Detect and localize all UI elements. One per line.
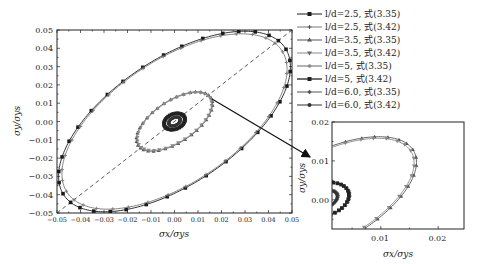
y-tick-label: 0.02 xyxy=(35,81,53,90)
x-tick-label: 0.01 xyxy=(371,234,389,243)
x-tick-label: 0.02 xyxy=(214,216,228,224)
x-tick-label: 0.04 xyxy=(261,216,275,224)
x-tick-label: −0.02 xyxy=(118,216,138,224)
main-plot: 0.05 0.04 0.03 0.02 0.01 0.00 −0.01 −0.0… xyxy=(12,26,299,239)
y-tick-label: −0.04 xyxy=(28,191,53,200)
x-tick-label: 0.00 xyxy=(167,216,181,224)
legend-item: l/d=6.0, 式(3.35) xyxy=(297,86,400,97)
y-tick-label: 0.01 xyxy=(35,99,53,108)
dot-marker-icon xyxy=(308,103,312,107)
svg-text:l/d=3.5, 式(3.35): l/d=3.5, 式(3.35) xyxy=(325,34,400,45)
main-y-axis-label: σy/σys xyxy=(12,106,22,136)
x-tick-label: 0.03 xyxy=(238,216,252,224)
svg-text:l/d=2.5, 式(3.35): l/d=2.5, 式(3.35) xyxy=(325,8,400,19)
zoom-arrow xyxy=(212,99,310,157)
inset-plot: 0.02 0.01 0.00 0.01 0.02 σx/σys σy/σys xyxy=(228,118,464,264)
svg-text:l/d=3.5, 式(3.42): l/d=3.5, 式(3.42) xyxy=(325,47,400,58)
svg-text:l/d=6.0, 式(3.35): l/d=6.0, 式(3.35) xyxy=(325,86,400,97)
square-marker-icon xyxy=(308,77,312,81)
y-tick-label: 0.00 xyxy=(35,118,53,127)
square-marker-icon xyxy=(308,12,312,16)
legend-item: l/d=5, 式(3.42) xyxy=(297,73,392,84)
inset-x-axis-label: σx/σys xyxy=(383,249,413,259)
main-y-tick-labels: 0.05 0.04 0.03 0.02 0.01 0.00 −0.01 −0.0… xyxy=(28,26,53,218)
y-tick-label: −0.01 xyxy=(28,136,53,145)
legend-item: l/d=3.5, 式(3.42) xyxy=(297,47,400,58)
legend: l/d=2.5, 式(3.35) l/d=2.5, 式(3.42) l/d=3.… xyxy=(297,8,400,110)
circle-marker-icon xyxy=(308,64,312,68)
x-tick-label: −0.04 xyxy=(71,216,91,224)
y-tick-label: −0.03 xyxy=(28,172,53,181)
y-tick-label: 0.04 xyxy=(35,44,53,53)
svg-text:l/d=2.5, 式(3.42): l/d=2.5, 式(3.42) xyxy=(325,21,400,32)
y-tick-label: 0.05 xyxy=(35,26,53,35)
x-tick-label: −0.01 xyxy=(141,216,161,224)
y-tick-label: −0.02 xyxy=(28,154,53,163)
svg-text:l/d=5, 式(3.42): l/d=5, 式(3.42) xyxy=(325,73,392,84)
x-tick-label: 0.02 xyxy=(428,234,446,243)
main-x-axis-label: σx/σys xyxy=(159,229,189,239)
main-x-tick-labels: −0.05 −0.04 −0.03 −0.02 −0.01 0.00 0.01 … xyxy=(47,216,299,224)
svg-text:l/d=6.0, 式(3.42): l/d=6.0, 式(3.42) xyxy=(325,99,400,110)
legend-item: l/d=5, 式(3.35) xyxy=(297,60,392,71)
x-tick-label: 0.01 xyxy=(191,216,205,224)
inset-plot-frame xyxy=(332,122,464,229)
legend-item: l/d=3.5, 式(3.35) xyxy=(297,34,400,45)
figure: 0.05 0.04 0.03 0.02 0.01 0.00 −0.01 −0.0… xyxy=(0,0,477,264)
legend-item: l/d=2.5, 式(3.35) xyxy=(297,8,400,19)
y-tick-label: 0.00 xyxy=(311,196,329,205)
legend-item: l/d=6.0, 式(3.42) xyxy=(297,99,400,110)
legend-item: l/d=2.5, 式(3.42) xyxy=(297,21,400,32)
y-tick-label: 0.02 xyxy=(311,118,329,127)
diagonal-reference-line xyxy=(57,30,292,213)
inset-y-axis-label: σy/σys xyxy=(297,163,307,193)
y-tick-label: 0.01 xyxy=(311,157,329,166)
x-tick-label: 0.05 xyxy=(285,216,299,224)
y-tick-label: 0.03 xyxy=(35,63,53,72)
x-tick-label: −0.05 xyxy=(47,216,67,224)
diamond-marker-icon xyxy=(307,90,311,94)
plus-marker-icon xyxy=(308,25,312,29)
svg-text:l/d=5, 式(3.35): l/d=5, 式(3.35) xyxy=(325,60,392,71)
x-tick-label: −0.03 xyxy=(94,216,114,224)
